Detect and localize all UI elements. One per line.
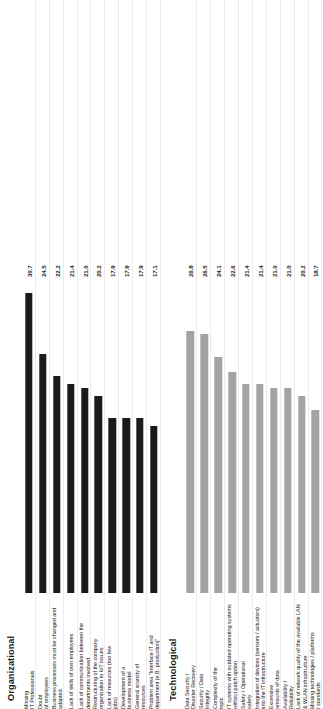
bar-track: 20.2	[295, 0, 309, 593]
bar	[122, 418, 129, 593]
chart-panel-organizational: Organizational Missing IT Professionals3…	[0, 0, 162, 709]
bar	[53, 376, 60, 593]
bar	[312, 410, 319, 593]
bar-value-label: 18.7	[312, 265, 319, 277]
bar-track: 17.1	[147, 0, 161, 593]
bar-value-label: 20.2	[95, 265, 102, 277]
bar-row: Development of a business model17.9	[119, 0, 133, 709]
bar-category-label: Data Security / Disaster Recovery	[184, 593, 196, 709]
bar-category-label: IT systems with outdated operating syste…	[226, 593, 238, 709]
bar-track: 24.5	[36, 0, 50, 593]
bar-row: Lack of skills of own employees21.4	[64, 0, 78, 709]
bar-category-label: Availability / Reliability	[282, 593, 294, 709]
bar-track: 17.9	[119, 0, 133, 593]
bar-category-label: Security / Data Integrity	[198, 593, 210, 709]
bar	[25, 293, 32, 593]
bar-track: 21.4	[239, 0, 253, 593]
chart-panel-technological: Technological Data Security / Disaster R…	[162, 0, 323, 709]
bar-track: 21.0	[267, 0, 281, 593]
bar-row: Lack of network quality of the available…	[295, 0, 309, 709]
bar-track: 18.7	[309, 0, 323, 593]
bar	[136, 418, 143, 593]
panel-title-technological: Technological	[168, 639, 178, 701]
bar-row: Lack of resources (too few jobs)17.9	[105, 0, 119, 709]
bar	[95, 396, 102, 593]
bar	[150, 426, 157, 593]
bar-rows-technological: Data Security / Disaster Recovery26.8Sec…	[184, 0, 320, 709]
bar-value-label: 22.2	[53, 265, 60, 277]
bar-value-label: 22.6	[229, 265, 236, 277]
bar-row: Security / Data Integrity26.5	[197, 0, 211, 709]
bar-category-label: Integration of devices (sensors / actuat…	[254, 593, 266, 709]
bar-row: Business processes must be changed and a…	[50, 0, 64, 709]
bar-track: 17.9	[105, 0, 119, 593]
bar-category-label: Safety / Operational safety	[240, 593, 252, 709]
bar-value-label: 21.4	[256, 265, 263, 277]
bar	[187, 331, 194, 593]
bar-value-label: 21.0	[270, 265, 277, 277]
bar-row: Safety / Operational safety21.4	[239, 0, 253, 709]
bar-track: 30.7	[22, 0, 36, 593]
bar-track: 22.6	[225, 0, 239, 593]
bar-category-label: Business processes must be changed and a…	[51, 593, 63, 709]
bar	[298, 396, 305, 593]
bar-track: 21.0	[281, 0, 295, 593]
bar	[228, 372, 235, 593]
bar-category-label: Lack of network quality of the available…	[295, 593, 307, 709]
bar-value-label: 17.9	[109, 265, 116, 277]
bar	[67, 384, 74, 593]
bar-category-label: Lack of communication between the depart…	[78, 593, 90, 709]
bar-category-label: Doubt of employees	[37, 593, 49, 709]
bar-row: Missing technologies / platforms / stand…	[309, 0, 323, 709]
bar-value-label: 26.5	[201, 265, 208, 277]
bar	[242, 384, 249, 593]
bar-value-label: 30.7	[25, 265, 32, 277]
bar-row: Lack of communication between the depart…	[78, 0, 92, 709]
bar	[39, 354, 46, 593]
bar-row: Missing IT Professionals30.7	[22, 0, 36, 709]
bar-category-label: Missing technologies / platforms / stand…	[309, 593, 321, 709]
bar-category-label: Complexity of the topic	[212, 593, 224, 709]
bar-value-label: 20.2	[298, 265, 305, 277]
bar-value-label: 17.1	[150, 265, 157, 277]
bar-category-label: General scarcity of resources	[134, 593, 146, 709]
bar-track: 22.2	[50, 0, 64, 593]
bar	[201, 334, 208, 593]
bar-value-label: 17.9	[137, 265, 144, 277]
bar-track: 21.0	[78, 0, 92, 593]
bar-category-label: Problem area "Interface IT and departmen…	[148, 593, 160, 709]
chart-stage: Organizational Missing IT Professionals3…	[0, 0, 323, 709]
bar-track: 24.1	[211, 0, 225, 593]
bar	[256, 384, 263, 593]
bar-value-label: 21.0	[81, 265, 88, 277]
bar-row: Excessive amounts of data21.0	[267, 0, 281, 709]
bar-category-label: Lack of skills of own employees	[68, 593, 74, 709]
bar	[109, 418, 116, 593]
bar-category-label: Excessive amounts of data	[268, 593, 280, 709]
bar-row: Restructuring of the company organizatio…	[91, 0, 105, 709]
panel-title-organizational: Organizational	[6, 636, 16, 701]
bar-row: Problem area "Interface IT and departmen…	[147, 0, 161, 709]
bar-row: IT systems with outdated operating syste…	[225, 0, 239, 709]
bar-value-label: 24.1	[215, 265, 222, 277]
bar	[284, 388, 291, 593]
bar-track: 26.5	[197, 0, 211, 593]
bar-track: 20.2	[91, 0, 105, 593]
bar-row: Availability / Reliability21.0	[281, 0, 295, 709]
bar-category-label: Restructuring of the company organizatio…	[92, 593, 104, 709]
bar-track: 17.9	[133, 0, 147, 593]
bar	[81, 388, 88, 593]
bar-track: 26.8	[184, 0, 198, 593]
bar-track: 21.4	[64, 0, 78, 593]
bar-track: 21.4	[253, 0, 267, 593]
bar-category-label: Lack of resources (too few jobs)	[106, 593, 118, 709]
bar-row: Doubt of employees24.5	[36, 0, 50, 709]
bar	[270, 388, 277, 593]
bar-value-label: 24.5	[39, 265, 46, 277]
bar	[215, 358, 222, 594]
bar-value-label: 21.0	[284, 265, 291, 277]
bar-row: Integration of devices (sensors / actuat…	[253, 0, 267, 709]
bar-value-label: 26.8	[187, 265, 194, 277]
bar-category-label: Missing IT Professionals	[23, 593, 35, 709]
bar-row: Complexity of the topic24.1	[211, 0, 225, 709]
